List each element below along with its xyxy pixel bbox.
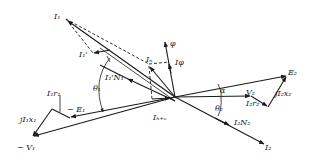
- label-Iphi: Iφ: [174, 58, 184, 67]
- phasor-E2: [175, 76, 286, 97]
- label-I1: I₁: [53, 12, 60, 21]
- label-theta2: θ₂: [215, 104, 223, 113]
- phasor-I1: [68, 21, 175, 97]
- phasor-diagram: I₁ I₁' I₁'N₁ Iₙ φ Iφ θ₁ Iₕ₊ₑ E₂ α V₂ θ₂ …: [0, 0, 314, 160]
- phasor-I1prime: [94, 50, 110, 53]
- label-I2N2: I₂N₂: [233, 118, 251, 127]
- phasor-V2: [175, 96, 250, 97]
- label-minusE1: − E₁: [67, 105, 85, 114]
- label-jI2x2: jI₂x₂: [273, 89, 292, 98]
- label-phi: φ: [170, 39, 176, 48]
- label-I2: I₂: [264, 143, 271, 152]
- label-Ihe: Iₕ₊ₑ: [152, 113, 167, 122]
- label-minusV1: − V₁: [17, 143, 35, 152]
- label-V2: V₂: [246, 88, 255, 97]
- label-I1primeN1: I₁'N₁: [104, 73, 124, 82]
- label-E2: E₂: [287, 68, 297, 77]
- label-I1r1: I₁r₁: [46, 89, 60, 98]
- label-theta1: θ₁: [93, 84, 101, 93]
- label-jI1x1: jI₁x₁: [18, 115, 37, 124]
- label-In: Iₙ: [145, 55, 152, 64]
- phasor-I2N2: [215, 118, 229, 125]
- label-I1prime: I₁': [78, 50, 88, 59]
- label-alpha: α: [220, 86, 226, 95]
- label-I2r2: I₂r₂: [245, 99, 259, 108]
